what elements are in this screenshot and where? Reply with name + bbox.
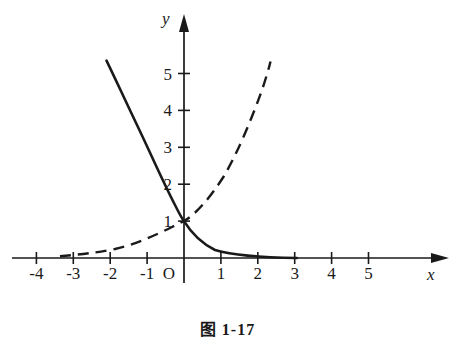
x-tick-label-4: 4 (327, 265, 336, 282)
y-axis-label: y (162, 10, 170, 27)
figure-caption: 图 1-17 (0, 316, 455, 340)
y-axis (179, 14, 189, 283)
x-tick-label-3: 3 (290, 265, 299, 282)
y-tick-label-5: 5 (150, 65, 172, 82)
curve-decreasing-solid (107, 61, 298, 258)
origin-label: O (163, 265, 175, 282)
y-tick-label-2: 2 (150, 176, 172, 193)
x-tick-label-5: 5 (364, 265, 373, 282)
y-tick-label-4: 4 (150, 102, 172, 119)
x-tick-label-1: 1 (217, 265, 226, 282)
x-tick-label-neg3: -3 (66, 265, 80, 282)
y-tick-label-3: 3 (150, 139, 172, 156)
x-tick-label-2: 2 (254, 265, 263, 282)
y-tick-label-1: 1 (150, 213, 172, 230)
x-axis-label: x (427, 266, 435, 283)
x-tick-label-neg2: -2 (103, 265, 117, 282)
x-tick-label-neg1: -1 (140, 265, 154, 282)
x-tick-label-neg4: -4 (29, 265, 43, 282)
